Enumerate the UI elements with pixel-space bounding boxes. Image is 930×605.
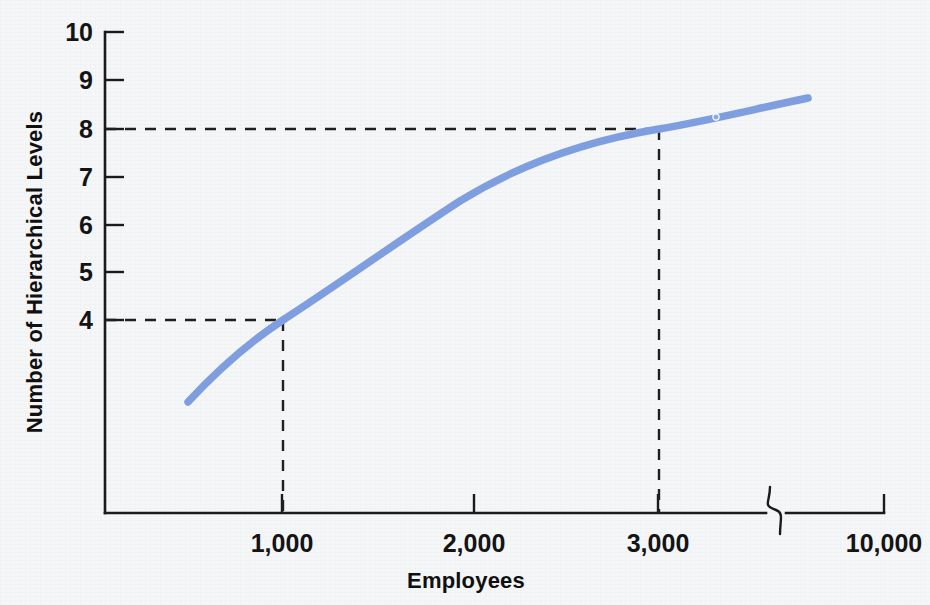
- y-tick-label-8: 8: [79, 115, 93, 143]
- y-tick-label-10: 10: [65, 18, 93, 46]
- x-tick-label-10000: 10,000: [846, 529, 922, 557]
- x-tick-marks: [282, 494, 884, 513]
- x-tick-label-2000: 2,000: [443, 529, 506, 557]
- x-tick-label-3000: 3,000: [627, 529, 690, 557]
- chart-figure: 10 9 8 7 6 5 4 1,000 2,000 3,000 10,000: [0, 0, 930, 605]
- x-axis-title: Employees: [407, 568, 525, 593]
- y-tick-label-7: 7: [79, 163, 93, 191]
- hierarchical-levels-curve: [188, 98, 808, 402]
- y-tick-label-6: 6: [79, 211, 93, 239]
- axis-break-squiggle-icon: [768, 487, 781, 534]
- y-axis-title: Number of Hierarchical Levels: [22, 111, 47, 433]
- y-tick-label-5: 5: [79, 258, 93, 286]
- y-tick-label-4: 4: [79, 306, 93, 334]
- y-tick-marks: [105, 32, 124, 320]
- x-tick-label-1000: 1,000: [251, 529, 314, 557]
- chart-plot-area: 10 9 8 7 6 5 4 1,000 2,000 3,000 10,000: [0, 0, 930, 605]
- curve-speck-artifact-icon: [713, 114, 719, 120]
- y-tick-label-9: 9: [79, 66, 93, 94]
